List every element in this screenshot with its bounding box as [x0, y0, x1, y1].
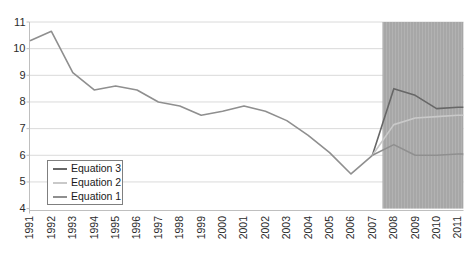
legend-item: Equation 3	[53, 162, 122, 175]
legend-label: Equation 2	[71, 176, 121, 189]
x-tick-label: 2010	[430, 216, 442, 240]
chart-legend: Equation 3Equation 2Equation 1	[47, 160, 123, 205]
y-tick-label: 10	[13, 42, 25, 54]
y-tick-label: 11	[14, 16, 25, 28]
chart-canvas: 4567891011199119921993199419951996199719…	[0, 0, 476, 254]
x-tick-label: 2001	[237, 216, 249, 240]
x-tick-label: 2004	[302, 216, 314, 240]
y-tick-label: 7	[19, 122, 25, 134]
y-tick-label: 9	[19, 69, 25, 81]
historical-line	[30, 31, 372, 174]
x-tick-label: 2002	[259, 216, 271, 240]
x-tick-label: 1993	[66, 216, 78, 240]
y-tick-label: 5	[19, 175, 25, 187]
x-tick-label: 2000	[216, 216, 228, 240]
legend-item: Equation 2	[53, 176, 122, 189]
x-tick-label: 1996	[130, 216, 142, 240]
legend-item: Equation 1	[53, 190, 122, 203]
x-tick-label: 1991	[23, 216, 35, 240]
x-tick-label: 1998	[173, 216, 185, 240]
x-tick-label: 2005	[323, 216, 335, 240]
legend-label: Equation 3	[71, 162, 121, 175]
x-tick-label: 2006	[344, 216, 356, 240]
x-tick-label: 1999	[195, 216, 207, 240]
x-tick-label: 2008	[387, 216, 399, 240]
legend-swatch-line	[53, 168, 67, 170]
x-tick-label: 2003	[280, 216, 292, 240]
x-tick-label: 1994	[88, 216, 100, 240]
legend-label: Equation 1	[71, 190, 121, 203]
x-tick-label: 1992	[45, 216, 57, 240]
y-tick-label: 4	[19, 202, 25, 214]
x-tick-label: 2007	[366, 216, 378, 240]
y-tick-label: 8	[19, 95, 25, 107]
chart: 4567891011199119921993199419951996199719…	[0, 0, 476, 254]
y-tick-label: 6	[19, 149, 25, 161]
legend-swatch-line	[53, 196, 67, 198]
x-tick-label: 1995	[109, 216, 121, 240]
x-tick-label: 2009	[409, 216, 421, 240]
x-tick-label: 2011	[451, 216, 463, 239]
legend-swatch-line	[53, 182, 67, 184]
x-tick-label: 1997	[152, 216, 164, 240]
